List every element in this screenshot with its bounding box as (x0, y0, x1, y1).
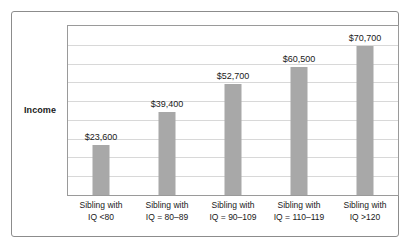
data-label: $60,500 (283, 54, 316, 64)
data-label: $70,700 (349, 33, 382, 43)
bar-slot (266, 26, 332, 195)
x-axis-label-line2: IQ = 110–119 (274, 212, 325, 224)
x-axis-label: Sibling withIQ = 80–89 (146, 200, 189, 223)
bar[interactable] (159, 112, 176, 195)
bars-group (68, 26, 398, 195)
x-axis-label: Sibling withIQ = 110–119 (274, 200, 325, 223)
x-axis-label-line1: Sibling with (80, 200, 123, 210)
bar-slot (332, 26, 398, 195)
x-axis-label-line2: IQ >120 (344, 212, 387, 224)
bar-slot (68, 26, 134, 195)
x-axis-label-line2: IQ = 90–109 (209, 212, 256, 224)
x-axis-label-line1: Sibling with (212, 200, 255, 210)
plot-area (67, 25, 399, 196)
x-axis-label-line1: Sibling with (278, 200, 321, 210)
data-label: $52,700 (217, 71, 250, 81)
data-label: $39,400 (151, 99, 184, 109)
bar[interactable] (291, 67, 308, 195)
bar[interactable] (93, 145, 110, 195)
x-axis-label-line1: Sibling with (344, 200, 387, 210)
bar[interactable] (357, 46, 374, 195)
bar-slot (200, 26, 266, 195)
x-axis-label-line2: IQ = 80–89 (146, 212, 189, 224)
x-axis-label: Sibling withIQ = 90–109 (209, 200, 256, 223)
data-label: $23,600 (85, 132, 118, 142)
chart-figure: Income $23,600$39,400$52,700$60,500$70,7… (0, 0, 412, 249)
bar[interactable] (225, 84, 242, 195)
x-axis-label-line1: Sibling with (146, 200, 189, 210)
x-axis-label: Sibling withIQ <80 (80, 200, 123, 223)
bar-slot (134, 26, 200, 195)
y-axis-title: Income (16, 105, 64, 115)
x-axis-label-line2: IQ <80 (80, 212, 123, 224)
x-axis-label: Sibling withIQ >120 (344, 200, 387, 223)
